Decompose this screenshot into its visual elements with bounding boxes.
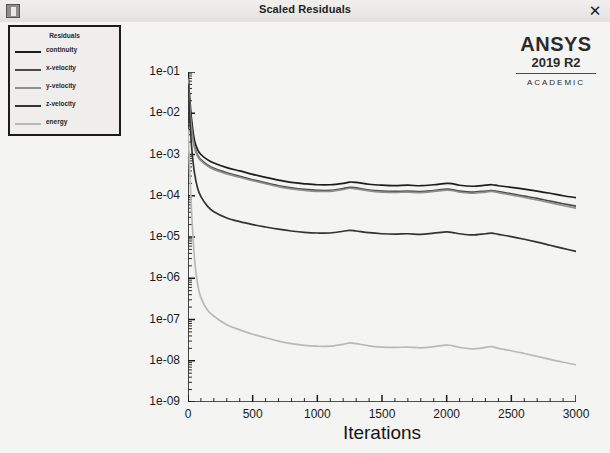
- logo-version: 2019 R2: [514, 55, 598, 70]
- x-tick-label: 500: [228, 407, 278, 421]
- legend-swatch-x-velocity: [15, 69, 41, 71]
- x-tick-label: 2000: [422, 407, 472, 421]
- legend-label-z-velocity: z-velocity: [46, 100, 76, 107]
- legend-swatch-energy: [15, 123, 41, 125]
- residuals-chart: [188, 72, 576, 402]
- window-title-bar[interactable]: Scaled Residuals ✕: [0, 0, 610, 23]
- y-tick-label: 1e-06: [126, 270, 180, 284]
- scaled-residuals-window: Scaled Residuals ✕ Residuals continuityx…: [0, 0, 610, 453]
- series-line-z-velocity: [188, 84, 576, 251]
- series-line-x-velocity: [188, 78, 576, 206]
- y-tick-label: 1e-01: [126, 64, 180, 78]
- close-icon[interactable]: ✕: [586, 2, 604, 20]
- y-tick-label: 1e-04: [126, 188, 180, 202]
- x-tick-label: 0: [163, 407, 213, 421]
- legend-swatch-continuity: [15, 51, 41, 53]
- legend-label-y-velocity: y-velocity: [46, 82, 76, 89]
- residuals-legend: Residuals continuityx-velocityy-velocity…: [8, 25, 121, 136]
- legend-item-z-velocity[interactable]: z-velocity: [15, 99, 119, 113]
- legend-swatch-y-velocity: [15, 87, 41, 89]
- y-tick-label: 1e-08: [126, 353, 180, 367]
- legend-label-continuity: continuity: [46, 46, 77, 53]
- x-tick-label: 1000: [292, 407, 342, 421]
- y-tick-label: 1e-02: [126, 105, 180, 119]
- x-axis-title: Iterations: [188, 422, 576, 444]
- window-title: Scaled Residuals: [0, 3, 610, 15]
- x-axis-ticks: [188, 395, 576, 402]
- legend-item-y-velocity[interactable]: y-velocity: [15, 81, 119, 95]
- x-tick-label: 1500: [357, 407, 407, 421]
- y-tick-label: 1e-09: [126, 394, 180, 408]
- chart-series-group: [188, 72, 576, 365]
- series-line-energy: [188, 130, 576, 365]
- legend-label-energy: energy: [46, 118, 67, 125]
- legend-item-continuity[interactable]: continuity: [15, 45, 119, 59]
- y-tick-label: 1e-03: [126, 147, 180, 161]
- legend-label-x-velocity: x-velocity: [46, 64, 76, 71]
- legend-item-energy[interactable]: energy: [15, 117, 119, 131]
- legend-item-x-velocity[interactable]: x-velocity: [15, 63, 119, 77]
- y-tick-label: 1e-05: [126, 229, 180, 243]
- plot-surface: Residuals continuityx-velocityy-velocity…: [0, 22, 610, 453]
- logo-product-name: ANSYS: [514, 34, 598, 55]
- x-tick-label: 2500: [486, 407, 536, 421]
- chart-svg: [188, 72, 576, 402]
- legend-title: Residuals: [10, 32, 119, 39]
- y-tick-label: 1e-07: [126, 312, 180, 326]
- x-tick-label: 3000: [551, 407, 601, 421]
- legend-swatch-z-velocity: [15, 105, 41, 107]
